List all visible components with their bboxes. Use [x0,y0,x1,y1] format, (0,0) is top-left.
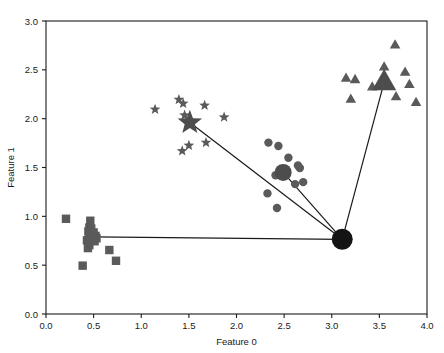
data-point-circle [264,138,272,146]
data-point-triangle [390,39,401,48]
x-tick-label: 3.0 [325,320,338,331]
y-tick-label: 1.0 [25,211,38,222]
connection-lines-group [94,82,385,239]
data-point-star [219,112,230,122]
plot-frame [46,21,427,314]
x-tick-label: 4.0 [420,320,433,331]
data-point-circle [299,178,307,186]
data-point-square [62,215,70,223]
data-point-triangle [346,93,357,102]
scatter-plot-figure: 0.00.51.01.52.02.53.03.54.00.00.51.01.52… [0,0,444,353]
data-point-square [105,246,113,254]
y-axis-title: Feature 1 [5,147,16,188]
data-point-triangle [341,72,352,81]
data-point-circle [273,204,281,212]
center-triangle [372,69,396,90]
y-tick-label: 2.0 [25,113,38,124]
axis-labels-group: 0.00.51.01.52.02.53.03.54.00.00.51.01.52… [5,16,434,348]
origin-point [332,229,353,250]
y-tick-label: 0.5 [25,260,38,271]
data-point-star [183,140,194,150]
y-tick-label: 2.5 [25,64,38,75]
data-point-circle [274,142,282,150]
data-point-triangle [411,97,422,106]
data-point-circle [263,189,271,197]
data-point-square [84,244,92,252]
line-origin-to-triangle-center [342,82,384,239]
x-tick-label: 1.0 [135,320,148,331]
data-point-square [78,261,86,269]
data-point-star [199,100,210,110]
data-point-triangle [404,79,415,88]
plot-canvas: 0.00.51.01.52.02.53.03.54.00.00.51.01.52… [0,0,444,353]
data-points-group [62,39,422,270]
x-tick-label: 2.0 [230,320,243,331]
data-point-triangle [350,74,361,83]
x-tick-label: 0.5 [87,320,100,331]
y-tick-label: 0.0 [25,309,38,320]
x-tick-label: 0.0 [39,320,52,331]
data-point-triangle [400,67,411,76]
center-circle [275,164,292,181]
y-tick-label: 1.5 [25,162,38,173]
x-tick-label: 1.5 [182,320,195,331]
data-point-circle [284,154,292,162]
data-point-star [177,145,188,155]
line-origin-to-square-cluster [94,237,343,239]
x-tick-label: 2.5 [278,320,291,331]
data-point-triangle [391,91,402,100]
x-axis-title: Feature 0 [216,336,257,347]
data-point-circle [291,180,299,188]
x-tick-label: 3.5 [373,320,386,331]
data-point-circle [296,164,304,172]
data-point-square [112,257,120,265]
data-point-star [150,104,161,114]
axes-group [42,21,427,318]
y-tick-label: 3.0 [25,16,38,27]
